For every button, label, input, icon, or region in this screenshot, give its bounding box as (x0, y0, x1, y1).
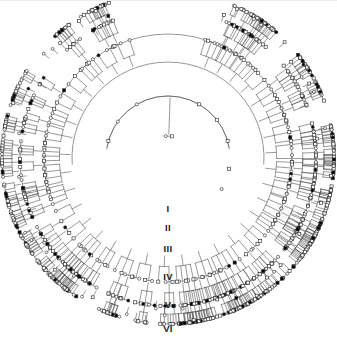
affected-female-symbol (275, 31, 278, 34)
connector-line (230, 268, 234, 276)
female-symbol (58, 282, 61, 285)
connector-line (43, 260, 50, 266)
male-symbol (300, 223, 303, 226)
male-symbol (219, 314, 222, 317)
connector-line (305, 219, 311, 221)
female-symbol (268, 25, 271, 28)
generation-label-2: II (148, 222, 188, 233)
affected-male-symbol (46, 242, 49, 245)
connector-line (43, 205, 51, 208)
affected-female-symbol (56, 256, 59, 259)
connector-line (275, 87, 282, 92)
connector-line (263, 183, 273, 186)
female-symbol (263, 234, 266, 237)
male-symbol (245, 253, 248, 256)
sibship-arc (12, 141, 13, 149)
male-symbol (301, 94, 304, 97)
connector-line (317, 174, 323, 175)
connector-line (27, 200, 40, 204)
connector-line (32, 232, 37, 235)
connector-line (37, 189, 46, 191)
female-symbol (252, 66, 255, 69)
connector-line (60, 266, 64, 270)
female-symbol (314, 161, 317, 164)
female-symbol (270, 27, 273, 30)
female-symbol (273, 259, 276, 262)
male-symbol (283, 41, 286, 44)
male-symbol (329, 189, 332, 192)
connector-line (182, 255, 183, 265)
female-symbol (25, 69, 28, 72)
connector-line (67, 273, 71, 278)
male-symbol (73, 74, 76, 77)
female-symbol (330, 128, 333, 131)
connector-line (25, 191, 38, 194)
sibship-arc (230, 69, 242, 79)
male-symbol (107, 1, 110, 4)
female-symbol (45, 183, 48, 186)
connector-line (72, 246, 78, 252)
connector-line (287, 222, 299, 228)
female-symbol (208, 298, 211, 301)
female-symbol (97, 26, 100, 29)
connector-line (118, 275, 121, 283)
affected-male-symbol (22, 186, 25, 189)
connector-line (16, 121, 22, 122)
connector-line (243, 270, 250, 281)
male-symbol (308, 82, 311, 85)
female-symbol (324, 127, 327, 130)
affected-female-symbol (314, 168, 317, 171)
connector-line (124, 287, 128, 300)
connector-line (67, 221, 80, 230)
connector-line (252, 42, 260, 52)
male-symbol (327, 198, 330, 201)
connector-line (194, 290, 197, 303)
connector-line (206, 303, 208, 309)
connector-line (245, 51, 250, 58)
female-symbol (238, 258, 241, 261)
male-symbol (286, 70, 289, 73)
male-symbol (72, 43, 75, 46)
connector-line (147, 282, 148, 291)
connector-line (115, 256, 122, 270)
male-symbol (25, 243, 28, 246)
connector-line (214, 245, 219, 254)
female-symbol (30, 239, 33, 242)
connector-line (264, 281, 270, 289)
sibship-arc (266, 36, 270, 39)
affected-female-symbol (248, 301, 251, 304)
connector-line (62, 135, 72, 137)
connector-line (276, 141, 291, 143)
connector-line (40, 84, 51, 91)
connector-line (245, 70, 256, 81)
connector-line (252, 282, 255, 287)
female-symbol (20, 178, 23, 181)
male-symbol (303, 250, 306, 253)
male-symbol (19, 148, 22, 151)
connector-line (145, 291, 147, 304)
affected-female-symbol (77, 274, 80, 277)
female-symbol (48, 121, 51, 124)
affected-female-symbol (311, 125, 314, 128)
connector-line (231, 247, 240, 260)
connector-line (217, 64, 222, 73)
generation-label-5: V (148, 299, 188, 310)
connector-line (208, 287, 212, 300)
female-symbol (314, 147, 317, 150)
connector-line (68, 38, 72, 43)
female-symbol (306, 205, 309, 208)
affected-female-symbol (13, 93, 16, 96)
female-symbol (20, 78, 23, 81)
male-symbol (265, 276, 268, 279)
male-symbol (113, 45, 116, 48)
male-symbol (289, 140, 292, 143)
connector-line (211, 44, 217, 58)
female-symbol (119, 42, 122, 45)
connector-line (5, 188, 15, 190)
connector-line (206, 42, 211, 56)
male-symbol (288, 181, 291, 184)
male-symbol (313, 178, 316, 181)
female-symbol (32, 94, 35, 97)
male-symbol (296, 85, 299, 88)
female-symbol (67, 82, 70, 85)
